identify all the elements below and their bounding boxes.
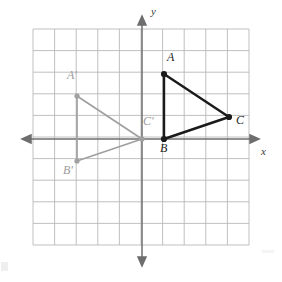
image-triangle-outline: [77, 96, 142, 161]
point-label-a-prime: A': [67, 68, 77, 83]
point-label-a: A: [167, 50, 174, 65]
scan-artifact-right: [262, 250, 274, 253]
x-axis-arrow-left: [22, 135, 31, 143]
triangle-abc: [161, 71, 232, 142]
y-axis-arrow-up: [138, 16, 146, 25]
point-label-b: B: [160, 141, 167, 156]
vertex-c: [226, 114, 232, 120]
point-label-c: C: [236, 113, 244, 128]
point-label-c-prime: C': [143, 114, 154, 129]
vertex-c-prime: [139, 136, 144, 141]
vertex-b-prime: [74, 158, 79, 163]
scan-artifact-bottom-left: [1, 262, 8, 271]
x-axis-arrow-right: [250, 135, 259, 143]
x-axis-label: x: [261, 145, 266, 157]
point-label-b-prime: B': [63, 163, 73, 178]
triangle-a-prime-b-prime-c-prime: [74, 93, 144, 163]
vertex-a: [161, 71, 167, 77]
preimage-triangle-outline: [164, 74, 229, 139]
y-axis-label: y: [151, 5, 156, 17]
vertex-a-prime: [74, 93, 79, 98]
y-axis-arrow-down: [138, 257, 146, 266]
coordinate-plane-figure: [0, 0, 282, 282]
